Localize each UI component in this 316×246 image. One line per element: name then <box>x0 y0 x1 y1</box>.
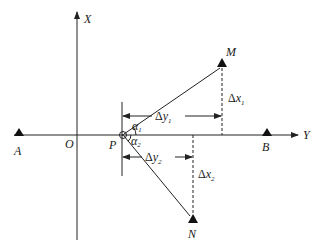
dx1-label: Δx1 <box>228 91 245 107</box>
dy1-label: Δy1 <box>155 109 172 125</box>
angle-a2-label: α2 <box>131 134 141 149</box>
point-m-triangle-icon <box>217 58 227 67</box>
point-m-label: M <box>225 45 237 59</box>
line-p-m <box>124 68 220 134</box>
point-b-label: B <box>262 140 270 154</box>
line-p-n <box>124 136 190 216</box>
dx2-label: Δx2 <box>198 167 215 183</box>
y-axis-label: Y <box>303 128 311 142</box>
origin-label: O <box>65 137 74 151</box>
dy2-label: Δy2 <box>145 150 162 166</box>
coordinate-diagram: Y X O A B P M N Δy1 Δy2 Δx1 Δx2 <box>0 0 316 246</box>
point-b-triangle-icon <box>262 128 272 136</box>
point-n-label: N <box>187 227 197 241</box>
angle-a1-label: α1 <box>132 119 142 134</box>
point-p-center-icon <box>122 134 124 136</box>
point-p-label: P <box>108 138 117 152</box>
point-a-label: A <box>13 144 22 158</box>
point-a-triangle-icon <box>14 128 24 136</box>
x-axis-label: X <box>83 12 92 26</box>
